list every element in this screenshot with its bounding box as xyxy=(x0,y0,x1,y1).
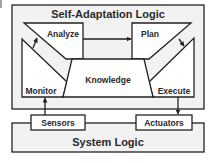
mape-k-diagram: Self-Adaptation Logic Analyze Plan Monit… xyxy=(0,0,216,163)
execute-label: Execute xyxy=(158,86,191,96)
actuators-label: Actuators xyxy=(144,118,184,128)
sensors-label: Sensors xyxy=(41,118,75,128)
system-logic-label: System Logic xyxy=(72,136,144,148)
monitor-label: Monitor xyxy=(25,86,57,96)
self-adaptation-logic-label: Self-Adaptation Logic xyxy=(51,8,165,20)
sensors-box[interactable]: Sensors xyxy=(31,115,85,130)
knowledge-block[interactable]: Knowledge xyxy=(63,59,153,97)
knowledge-label: Knowledge xyxy=(85,75,131,85)
plan-label: Plan xyxy=(141,29,159,39)
analyze-label: Analyze xyxy=(47,29,79,39)
actuators-box[interactable]: Actuators xyxy=(136,115,192,130)
